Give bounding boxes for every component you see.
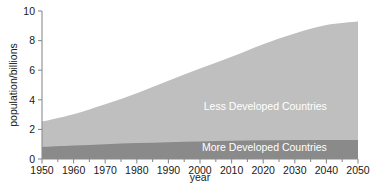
chart-svg: 0246810 19501960197019801990200020102020… [0, 0, 370, 192]
y-tick-label: 2 [29, 123, 35, 135]
x-tick-label: 2020 [252, 164, 276, 176]
x-tick-label: 2010 [220, 164, 244, 176]
population-area-chart: 0246810 19501960197019801990200020102020… [0, 0, 370, 192]
x-tick-label: 1990 [157, 164, 181, 176]
series-label-more-developed: More Developed Countries [202, 141, 327, 153]
y-tick-label: 8 [29, 34, 35, 46]
y-axis-ticks: 0246810 [23, 5, 42, 165]
x-tick-label: 1970 [94, 164, 118, 176]
series-label-less-developed: Less Developed Countries [204, 100, 327, 112]
y-axis-title: population/billions [7, 43, 19, 126]
x-tick-label: 2030 [283, 164, 307, 176]
y-tick-label: 6 [29, 64, 35, 76]
x-tick-label: 1980 [125, 164, 149, 176]
x-axis-title: year [190, 171, 211, 183]
y-tick-label: 4 [29, 94, 35, 106]
x-tick-label: 2050 [346, 164, 370, 176]
y-tick-label: 0 [29, 153, 35, 165]
y-tick-label: 10 [23, 5, 35, 17]
x-tick-label: 1960 [62, 164, 86, 176]
x-tick-label: 1950 [30, 164, 54, 176]
x-tick-label: 2040 [315, 164, 339, 176]
